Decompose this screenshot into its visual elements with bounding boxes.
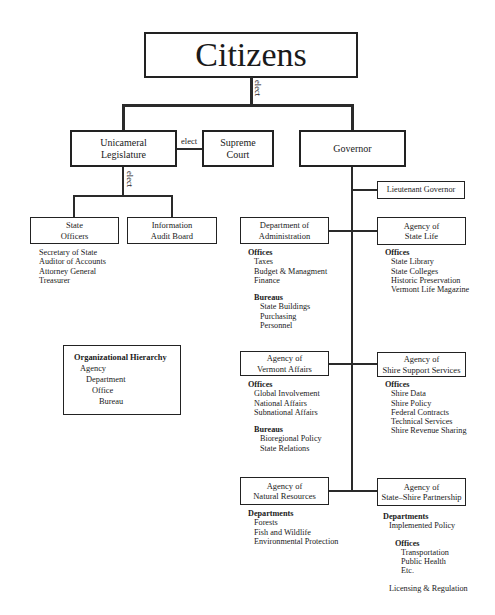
citizens-label: Citizens	[195, 35, 306, 76]
citizens-box: Citizens	[144, 32, 358, 78]
legend-level: Office	[74, 385, 167, 396]
hierarchy-legend: Organizational Hierarchy Agency Departme…	[63, 345, 181, 415]
list-item: State Relations	[248, 444, 322, 453]
list-item: Bioregional Policy	[248, 434, 322, 443]
legend-level: Department	[74, 374, 167, 385]
legislature-drop	[122, 104, 125, 131]
shire-support-box: Agency of Shire Support Services	[377, 352, 466, 377]
list-item: State Colleges	[385, 267, 469, 276]
vermont-affairs-box: Agency of Vermont Affairs	[240, 351, 329, 376]
bureaus-heading: Bureaus	[248, 425, 322, 434]
natural-resources-box: Agency of Natural Resources	[240, 477, 329, 505]
list-item: State Library	[385, 257, 469, 266]
state-life-line-1: Agency of	[404, 221, 440, 231]
state-shire-line-2: State–Shire Partnership	[381, 492, 461, 502]
departments-heading: Departments	[248, 509, 338, 518]
vermont-affairs-details: Offices Global Involvement National Affa…	[248, 380, 322, 453]
list-item: Global Involvement	[248, 389, 322, 398]
administration-line-2: Administration	[259, 231, 310, 241]
legislature-down	[122, 167, 124, 196]
list-item: Environmental Protection	[248, 537, 338, 546]
audit-board-line-2: Audit Board	[151, 231, 193, 241]
legend-level: Agency	[74, 363, 167, 374]
state-life-box: Agency of State Life	[377, 217, 466, 245]
list-item: Historic Preservation	[385, 276, 469, 285]
state-officers-drop	[73, 195, 75, 218]
state-shire-details: Departments Implemented Policy Offices T…	[383, 512, 468, 593]
lt-gov-connector	[352, 189, 377, 191]
list-item: National Affairs	[248, 399, 322, 408]
list-item: Federal Contracts	[385, 408, 467, 417]
natural-resources-line-1: Agency of	[267, 481, 303, 491]
list-item: Subnational Affairs	[248, 408, 322, 417]
state-officers-line-2: Officers	[61, 231, 89, 241]
state-officers-list: Secretary of State Auditor of Accounts A…	[39, 248, 106, 285]
shire-support-line-1: Agency of	[404, 354, 440, 364]
bureaus-heading: Bureaus	[248, 293, 327, 302]
state-life-details: Offices State Library State Colleges His…	[385, 248, 469, 294]
list-item: Personnel	[248, 321, 327, 330]
row1-connector	[328, 230, 377, 232]
lieutenant-governor-label: Lieutenant Governor	[387, 185, 455, 195]
list-item: Transportation	[383, 548, 468, 557]
list-item: Secretary of State	[39, 248, 106, 257]
administration-box: Department of Administration	[240, 217, 329, 244]
administration-line-1: Department of	[260, 220, 309, 230]
legend-level: Bureau	[74, 396, 167, 407]
vermont-affairs-line-2: Vermont Affairs	[257, 364, 312, 374]
supreme-court-box: Supreme Court	[202, 130, 274, 167]
offices-heading: Offices	[248, 248, 327, 257]
row2-connector	[328, 363, 377, 365]
list-item: Taxes	[248, 257, 327, 266]
audit-board-line-1: Information	[152, 220, 193, 230]
branches-bar	[122, 104, 354, 107]
shire-support-line-2: Shire Support Services	[383, 365, 461, 375]
legend-title: Organizational Hierarchy	[74, 352, 167, 363]
court-line-1: Supreme	[220, 137, 256, 149]
legislature-line-2: Legislature	[101, 149, 146, 161]
state-officers-box: State Officers	[30, 217, 119, 244]
court-elect-label: elect	[181, 136, 197, 146]
list-item: Implemented Policy	[383, 521, 468, 530]
list-item: Etc.	[383, 566, 468, 575]
governor-drop	[351, 104, 354, 131]
list-item: Attorney General	[39, 267, 106, 276]
offices-heading: Offices	[385, 248, 469, 257]
list-item: Treasurer	[39, 276, 106, 285]
state-officers-line-1: State	[66, 220, 83, 230]
list-item: Finance	[248, 276, 327, 285]
state-life-line-2: State Life	[405, 231, 438, 241]
list-item: Auditor of Accounts	[39, 257, 106, 266]
natural-resources-details: Departments Forests Fish and Wildlife En…	[248, 509, 338, 546]
shire-support-details: Offices Shire Data Shire Policy Federal …	[385, 380, 467, 436]
list-item: Budget & Managment	[248, 267, 327, 276]
licensing-regulation: Licensing & Regulation	[383, 584, 468, 593]
vermont-affairs-line-1: Agency of	[267, 353, 303, 363]
list-item: Purchasing	[248, 312, 327, 321]
offices-heading: Offices	[385, 380, 467, 389]
state-shire-line-1: Agency of	[404, 482, 440, 492]
list-item: Vermont Life Magazine	[385, 285, 469, 294]
list-item: Forests	[248, 518, 338, 527]
legislature-children-bar	[73, 195, 173, 197]
departments-heading: Departments	[383, 512, 468, 521]
row3-connector	[328, 490, 377, 492]
list-item: Shire Data	[385, 389, 467, 398]
governor-label: Governor	[333, 143, 371, 155]
audit-board-box: Information Audit Board	[127, 217, 217, 244]
list-item: Shire Policy	[385, 399, 467, 408]
executive-spine	[351, 167, 353, 491]
legislature-line-1: Unicameral	[100, 137, 147, 149]
court-line-2: Court	[227, 149, 250, 161]
list-item: Technical Services	[385, 417, 467, 426]
legislature-elect-label: elect	[125, 171, 135, 187]
natural-resources-line-2: Natural Resources	[253, 491, 316, 501]
citizens-elect-label: elect	[253, 80, 263, 96]
lieutenant-governor-box: Lieutenant Governor	[377, 181, 465, 199]
governor-box: Governor	[299, 130, 406, 167]
audit-board-drop	[171, 195, 173, 218]
legislature-box: Unicameral Legislature	[70, 130, 177, 167]
offices-heading: Offices	[383, 539, 468, 548]
list-item: Shire Revenue Sharing	[385, 426, 467, 435]
list-item: State Buildings	[248, 302, 327, 311]
